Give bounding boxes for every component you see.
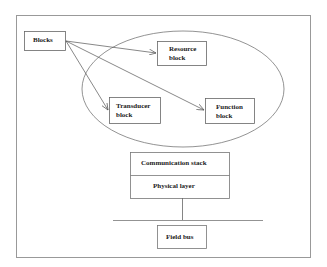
blocks-label: Blocks	[33, 36, 53, 45]
function-label-2: block	[216, 112, 232, 121]
arrow-to-resource	[66, 41, 156, 53]
transducer-label-2: block	[116, 111, 132, 120]
resource-label-1: Resource	[169, 45, 196, 54]
resource-label-2: block	[169, 54, 185, 63]
function-label-1: Function	[216, 103, 243, 112]
physical-layer-label: Physical layer	[153, 182, 195, 191]
communication-stack-label: Communication stack	[141, 159, 207, 168]
transducer-label-1: Transducer	[116, 102, 150, 111]
field-bus-label: Field bus	[166, 233, 193, 242]
